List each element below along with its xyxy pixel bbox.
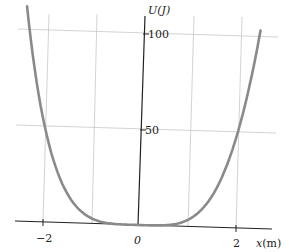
y-tick-100: 100 [148, 28, 169, 41]
gridline-x-neg1 [92, 14, 97, 223]
x-tick-neg2: −2 [36, 232, 52, 245]
y-axis [138, 16, 145, 225]
gridline-x-1 [188, 16, 194, 226]
x-tick-2: 2 [233, 237, 240, 250]
y-tick-50: 50 [145, 124, 159, 137]
y-axis-label: U(J) [148, 4, 170, 17]
x-axis-unit: (m) [262, 237, 281, 250]
potential-energy-chart: U(J) 100 50 −2 0 2 x(m) [0, 0, 289, 252]
x-tick-0: 0 [134, 234, 141, 247]
x-axis-label: x(m) [256, 237, 281, 250]
grid [16, 14, 278, 228]
